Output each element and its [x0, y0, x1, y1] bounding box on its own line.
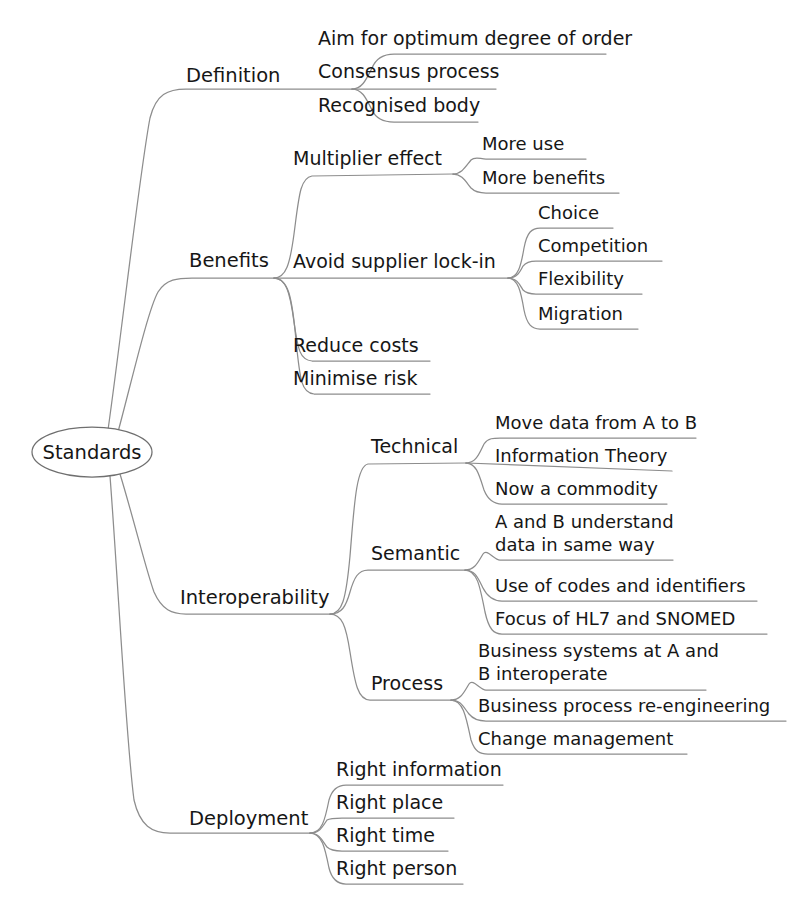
branch-label-benefits: Benefits — [189, 249, 269, 272]
node-focus-hl7-snomed: Focus of HL7 and SNOMED — [495, 608, 735, 629]
branch-label-definition: Definition — [186, 64, 280, 87]
node-competition: Competition — [538, 235, 648, 256]
node-a-and-b-understand-line1: A and B understand — [495, 511, 674, 532]
node-more-use: More use — [482, 133, 564, 154]
node-right-time: Right time — [336, 824, 435, 846]
node-benefits-multiplier-effect: Multiplier effect — [293, 147, 442, 169]
node-choice: Choice — [538, 202, 599, 223]
node-business-process-reengineering: Business process re-engineering — [478, 695, 770, 716]
node-a-and-b-understand-line2: data in same way — [495, 534, 655, 555]
node-right-place: Right place — [336, 791, 443, 813]
node-migration: Migration — [538, 303, 623, 324]
trunk-to-benefits — [118, 278, 274, 432]
trunk-to-deployment — [110, 476, 310, 833]
connector-interop-child-1 — [330, 570, 465, 614]
node-benefits-reduce-costs: Reduce costs — [293, 334, 419, 356]
node-definition-child-0: Aim for optimum degree of order — [318, 27, 632, 49]
node-more-benefits: More benefits — [482, 167, 605, 188]
node-right-information: Right information — [336, 758, 502, 780]
node-move-data: Move data from A to B — [495, 412, 697, 433]
branch-definition[interactable]: Definition Aim for optimum degree of ord… — [186, 27, 632, 122]
branch-benefits[interactable]: Benefits Multiplier effect Avoid supplie… — [189, 133, 662, 394]
node-use-of-codes: Use of codes and identifiers — [495, 575, 746, 596]
node-flexibility: Flexibility — [538, 268, 624, 289]
branch-interoperability[interactable]: Interoperability Technical Semantic Proc… — [180, 412, 786, 754]
node-technical: Technical — [370, 435, 458, 457]
mind-map-canvas: Standards Definition Aim for optimum deg… — [0, 0, 808, 917]
root-label: Standards — [43, 441, 142, 464]
branch-label-interoperability: Interoperability — [180, 586, 329, 609]
node-business-systems-line2: B interoperate — [478, 663, 608, 684]
node-definition-child-2: Recognised body — [318, 94, 480, 116]
branch-deployment[interactable]: Deployment Right information Right place… — [189, 758, 503, 884]
node-right-person: Right person — [336, 857, 457, 879]
node-change-management: Change management — [478, 728, 673, 749]
node-benefits-avoid-lock-in: Avoid supplier lock-in — [293, 250, 496, 272]
node-benefits-minimise-risk: Minimise risk — [293, 367, 417, 389]
node-definition-child-1: Consensus process — [318, 60, 499, 82]
node-now-a-commodity: Now a commodity — [495, 478, 658, 499]
node-business-systems-line1: Business systems at A and — [478, 640, 719, 661]
node-process: Process — [371, 672, 443, 694]
root-node[interactable]: Standards — [32, 427, 152, 477]
node-semantic: Semantic — [371, 542, 460, 564]
branch-label-deployment: Deployment — [189, 807, 309, 830]
node-information-theory: Information Theory — [495, 445, 668, 466]
